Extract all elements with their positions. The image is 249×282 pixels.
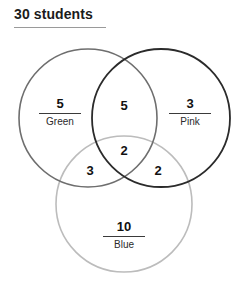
region-all-three-count: 2 xyxy=(120,143,127,158)
region-green-pink-count: 5 xyxy=(120,98,127,113)
venn-diagram-page: 30 students 5 Green 3 Pink 10 Blue xyxy=(0,0,249,282)
region-blue-only-count: 10 xyxy=(103,219,145,234)
region-green-pink: 5 xyxy=(120,98,127,113)
region-green-only-count: 5 xyxy=(39,96,81,111)
venn-diagram: 5 Green 3 Pink 10 Blue 5 3 2 xyxy=(0,0,249,282)
region-blue-only-rule xyxy=(103,236,145,237)
region-blue-only-label: Blue xyxy=(103,239,145,251)
region-pink-only: 3 Pink xyxy=(169,96,211,128)
region-green-only-label: Green xyxy=(39,116,81,128)
region-green-blue-count: 3 xyxy=(86,163,93,178)
region-pink-only-label: Pink xyxy=(169,116,211,128)
region-pink-blue-count: 2 xyxy=(154,163,161,178)
region-all-three: 2 xyxy=(120,143,127,158)
region-pink-only-count: 3 xyxy=(169,96,211,111)
region-pink-blue: 2 xyxy=(154,163,161,178)
region-pink-only-rule xyxy=(169,113,211,114)
region-green-only: 5 Green xyxy=(39,96,81,128)
region-green-only-rule xyxy=(39,113,81,114)
region-blue-only: 10 Blue xyxy=(103,219,145,251)
region-green-blue: 3 xyxy=(86,163,93,178)
